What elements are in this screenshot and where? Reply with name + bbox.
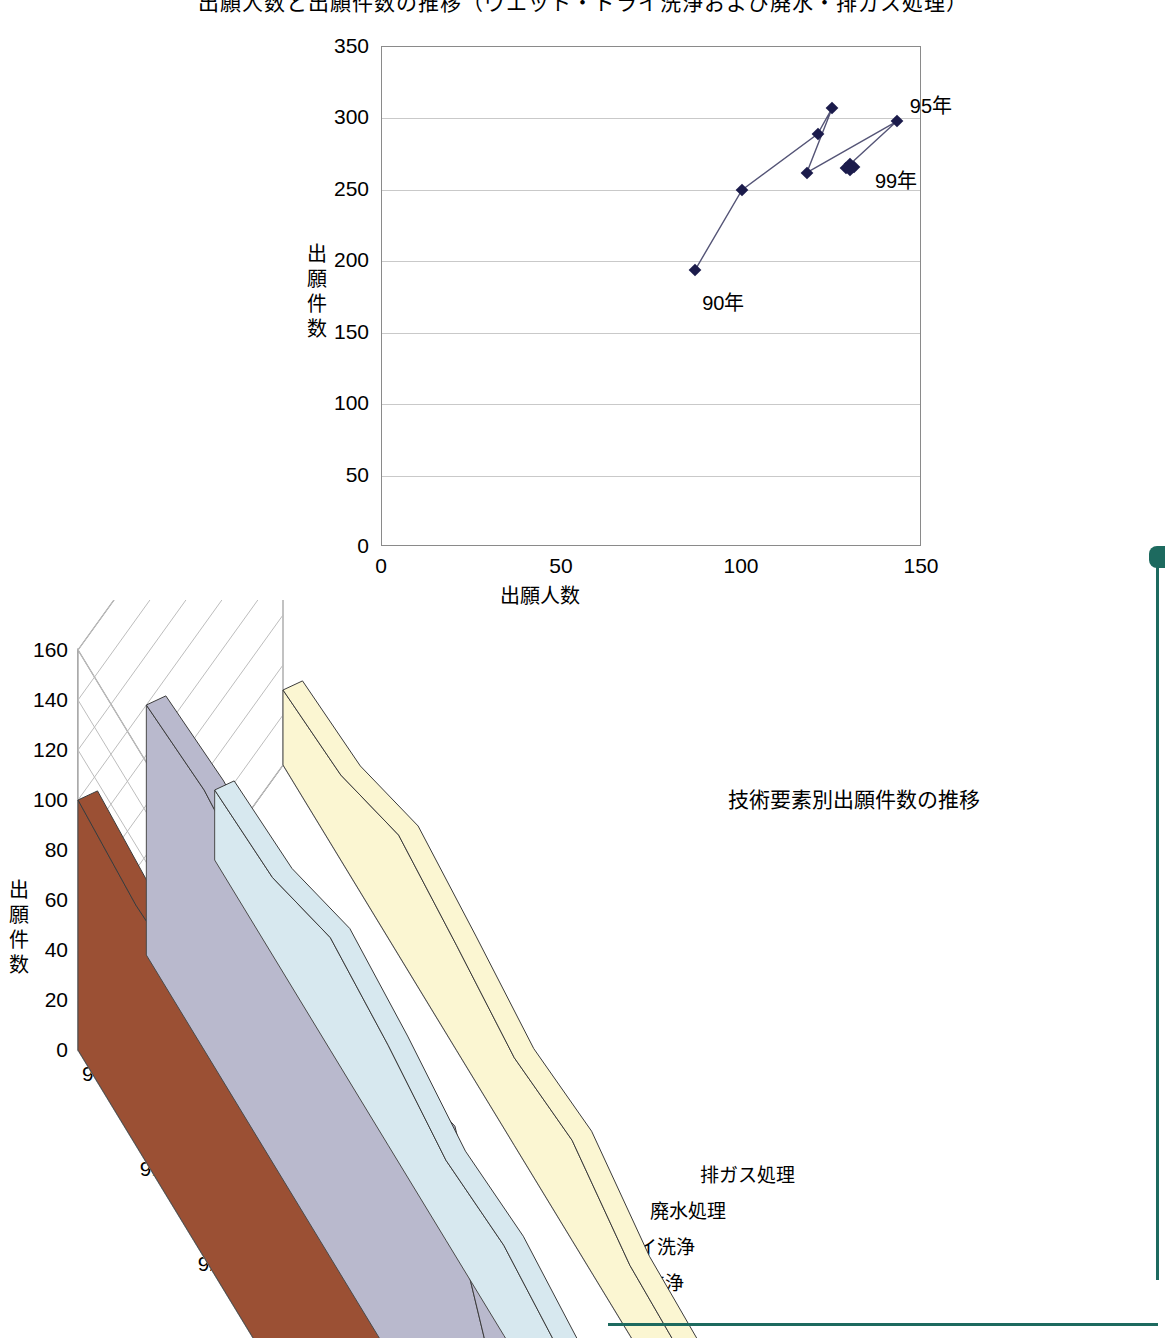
bottom-decoration-line — [608, 1323, 1158, 1326]
scatter-x-tick: 100 — [711, 554, 771, 578]
scatter-y-tick: 250 — [309, 177, 369, 201]
scatter-x-tick: 0 — [351, 554, 411, 578]
surface-chart: 出願件数 出願年 技術要素別出願件数の推移 020406080100120140… — [0, 600, 1165, 1338]
scatter-y-tick: 50 — [309, 463, 369, 487]
surface-canvas — [0, 600, 1165, 1338]
scatter-annotation: 90年 — [702, 287, 744, 316]
scatter-y-tick: 200 — [309, 248, 369, 272]
scatter-annotation: 95年 — [910, 90, 952, 119]
scatter-plot-area — [381, 46, 921, 546]
scatter-x-tick: 150 — [891, 554, 951, 578]
scatter-x-tick: 50 — [531, 554, 591, 578]
edge-decoration-line — [1156, 560, 1159, 1280]
scatter-annotation: 99年 — [875, 165, 917, 194]
scatter-y-tick: 150 — [309, 320, 369, 344]
scatter-y-tick: 350 — [309, 34, 369, 58]
scatter-chart: 出願件数 出願人数 050100150200250300350050100150… — [0, 10, 1000, 620]
scatter-y-tick: 300 — [309, 105, 369, 129]
scatter-series-line — [382, 47, 922, 547]
scatter-y-tick: 100 — [309, 391, 369, 415]
